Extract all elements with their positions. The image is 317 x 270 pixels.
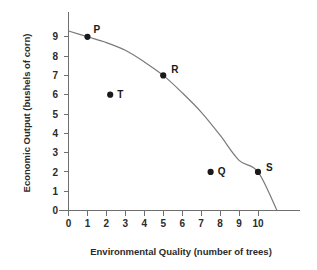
y-tick-label: 7 [52, 70, 58, 81]
y-tick-label: 4 [52, 128, 58, 139]
data-point-label-s: S [266, 162, 273, 173]
ppf-curve [69, 31, 277, 210]
y-tick-label: 8 [52, 51, 58, 62]
data-point-r [160, 72, 166, 78]
x-tick-label: 6 [179, 218, 185, 229]
y-tick-label: 0 [52, 205, 58, 216]
data-point-p [84, 34, 90, 40]
x-tick-label: 4 [142, 218, 148, 229]
data-point-label-p: P [93, 24, 100, 35]
y-tick-label: 5 [52, 109, 58, 120]
data-point-label-t: T [117, 89, 123, 100]
data-point-t [107, 92, 113, 98]
y-tick-label: 6 [52, 89, 58, 100]
ppf-chart-plot: 0123456789 012345678910 PTRQS Environmen… [0, 0, 317, 270]
x-tick-label: 3 [123, 218, 129, 229]
x-tick-label: 10 [252, 218, 264, 229]
data-point-s [255, 169, 261, 175]
y-tick-label: 3 [52, 147, 58, 158]
data-point-label-q: Q [218, 166, 226, 177]
data-point-label-r: R [171, 64, 179, 75]
x-axis-ticks: 012345678910 [66, 211, 264, 230]
chart-container: 0123456789 012345678910 PTRQS Environmen… [0, 0, 317, 270]
data-points-group: PTRQS [84, 24, 273, 177]
y-axis-title: Economic Output (bushels of corn) [21, 34, 32, 193]
x-tick-label: 2 [104, 218, 110, 229]
y-axis-ticks: 0123456789 [52, 31, 68, 216]
x-tick-label: 5 [160, 218, 166, 229]
x-tick-label: 1 [85, 218, 91, 229]
y-tick-label: 1 [52, 186, 58, 197]
y-tick-label: 2 [52, 167, 58, 178]
x-tick-label: 7 [198, 218, 204, 229]
x-tick-label: 8 [217, 218, 223, 229]
y-tick-label: 9 [52, 31, 58, 42]
data-point-q [208, 169, 214, 175]
x-axis-title: Environmental Quality (number of trees) [90, 246, 272, 257]
x-tick-label: 9 [236, 218, 242, 229]
x-tick-label: 0 [66, 218, 72, 229]
